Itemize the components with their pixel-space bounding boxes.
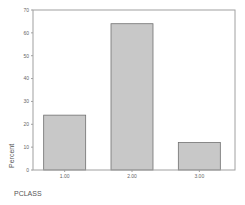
bars (44, 24, 221, 170)
y-axis-ticks: 010203040506070 (23, 7, 33, 173)
y-tick-label: 40 (23, 75, 29, 81)
y-tick-label: 30 (23, 98, 29, 104)
y-tick-label: 50 (23, 53, 29, 59)
x-tick-label: 3.00 (194, 173, 204, 179)
bar-3.00 (178, 143, 220, 170)
bar-2.00 (111, 24, 153, 170)
bar-chart: 010203040506070 1.002.003.00 Percent PCL… (0, 0, 245, 205)
y-axis-title: Percent (8, 144, 15, 168)
y-tick-label: 60 (23, 30, 29, 36)
x-tick-label: 1.00 (60, 173, 70, 179)
y-tick-label: 10 (23, 144, 29, 150)
y-tick-label: 70 (23, 7, 29, 13)
y-tick-label: 0 (26, 167, 29, 173)
y-tick-label: 20 (23, 121, 29, 127)
x-tick-label: 2.00 (127, 173, 137, 179)
x-variable-label: PCLASS (14, 190, 42, 197)
x-axis-ticks: 1.002.003.00 (60, 170, 205, 179)
bar-1.00 (44, 115, 86, 170)
